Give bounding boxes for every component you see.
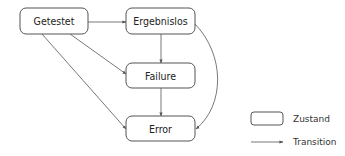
edge-getestet-failure	[70, 34, 126, 74]
legend-transition-label: Transition	[292, 137, 337, 147]
legend: Zustand Transition	[251, 112, 337, 147]
node-label: Error	[149, 123, 172, 135]
node-error: Error	[126, 116, 195, 141]
state-diagram: Getestet Ergebnislos Failure Error Zusta…	[0, 0, 345, 156]
node-label: Getestet	[34, 15, 75, 27]
node-ergebnislos: Ergebnislos	[126, 8, 195, 34]
node-failure: Failure	[126, 63, 195, 88]
node-getestet: Getestet	[20, 8, 88, 34]
node-label: Failure	[145, 70, 176, 82]
edge-getestet-error	[42, 34, 126, 129]
node-label: Ergebnislos	[133, 15, 187, 27]
legend-state-symbol	[251, 112, 283, 125]
edge-ergebnislos-error	[195, 24, 218, 129]
legend-state-label: Zustand	[293, 114, 330, 124]
